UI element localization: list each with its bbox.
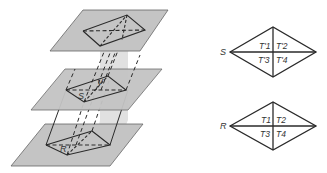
cell-t2: T2 (276, 115, 286, 125)
cell-t1: T1 (261, 115, 271, 125)
label-s-right: S (220, 47, 226, 57)
label-r-left: R (60, 144, 67, 154)
label-v: V (97, 77, 104, 87)
cell-t2-prime: T'2 (276, 41, 288, 51)
cell-t4-prime: T'4 (276, 55, 288, 65)
label-r-right: R (220, 121, 227, 131)
cell-t1-prime: T'1 (259, 41, 271, 51)
cell-t4: T4 (276, 129, 286, 139)
cell-t3: T3 (260, 129, 270, 139)
rhombus-r (230, 102, 316, 150)
rhombus-s (230, 27, 316, 77)
cell-t3-prime: T'3 (258, 55, 270, 65)
prism-diagram: R S V S T (0, 0, 327, 173)
bottom-plane (11, 124, 143, 166)
label-s-left: S (78, 91, 84, 101)
